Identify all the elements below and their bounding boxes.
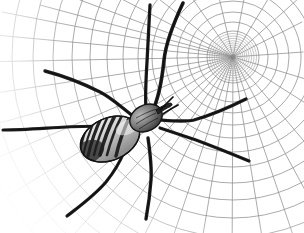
spider-web-illustration bbox=[0, 0, 304, 233]
illustration-canvas: Spider on Orb Web orb-weaver spider rest… bbox=[0, 0, 304, 233]
